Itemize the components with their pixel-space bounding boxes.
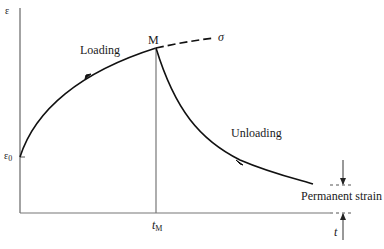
diagram-canvas [0,0,384,249]
loading-label: Loading [80,44,120,56]
tm-subscript: M [155,224,162,233]
unloading-label: Unloading [231,127,282,139]
epsilon0-label: ε0 [4,151,12,163]
stress-label: σ [218,31,224,43]
unloading-curve [156,48,313,184]
arrow-up-icon [340,213,346,220]
epsilon0-subscript: 0 [8,154,12,163]
x-axis-label: t [334,226,337,238]
loading-curve [20,48,156,157]
y-axis-label: ε [5,6,9,16]
tm-label: tM [152,219,162,233]
arrow-down-icon [340,178,346,185]
max-point-label: M [148,34,159,46]
stress-continuation-dashed [156,38,215,48]
permanent-strain-label: Permanent strain [301,190,382,202]
